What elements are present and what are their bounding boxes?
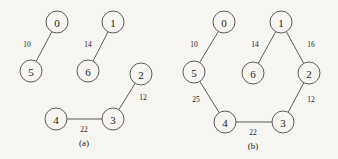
node-label-3: 3 bbox=[280, 117, 286, 129]
node-label-1: 1 bbox=[110, 17, 116, 29]
node-label-2: 2 bbox=[306, 68, 312, 80]
edge-weight-2-3: 12 bbox=[139, 93, 147, 102]
edge-weight-3-4: 22 bbox=[249, 128, 257, 137]
edge-weight-2-3: 12 bbox=[307, 95, 315, 104]
node-label-5: 5 bbox=[28, 66, 34, 78]
edge-weight-0-5: 10 bbox=[190, 40, 198, 49]
graph-panel-b: 1014162512220123456(b) bbox=[183, 11, 320, 151]
panel-caption-a: (a) bbox=[79, 138, 89, 148]
node-label-3: 3 bbox=[110, 114, 116, 126]
edge-0-5 bbox=[36, 32, 52, 62]
figure-container: 101412220123456(a)1014162512220123456(b) bbox=[0, 0, 338, 159]
node-label-2: 2 bbox=[138, 69, 144, 81]
node-label-6: 6 bbox=[250, 68, 256, 80]
edge-0-5 bbox=[200, 31, 219, 62]
node-label-4: 4 bbox=[53, 114, 59, 126]
edge-1-6 bbox=[258, 32, 275, 64]
edge-1-2 bbox=[286, 32, 303, 64]
edge-weight-3-4: 22 bbox=[80, 125, 88, 134]
edge-5-4 bbox=[200, 81, 219, 112]
panel-caption-b: (b) bbox=[248, 141, 259, 151]
edge-weight-5-4: 25 bbox=[192, 95, 200, 104]
node-label-1: 1 bbox=[278, 17, 284, 29]
node-label-0: 0 bbox=[221, 17, 227, 29]
edge-1-6 bbox=[93, 32, 108, 61]
node-label-4: 4 bbox=[222, 117, 228, 129]
graph-diagram: 101412220123456(a)1014162512220123456(b) bbox=[0, 0, 338, 159]
edge-weight-1-6: 14 bbox=[251, 40, 259, 49]
edge-weight-1-6: 14 bbox=[84, 40, 92, 49]
node-label-0: 0 bbox=[54, 17, 60, 29]
graph-panel-a: 101412220123456(a) bbox=[20, 11, 152, 148]
edge-weight-1-2: 16 bbox=[307, 40, 315, 49]
edge-weight-0-5: 10 bbox=[23, 40, 31, 49]
node-label-5: 5 bbox=[191, 67, 197, 79]
edge-2-3 bbox=[119, 83, 135, 109]
node-label-6: 6 bbox=[85, 66, 91, 78]
edge-2-3 bbox=[288, 83, 304, 113]
